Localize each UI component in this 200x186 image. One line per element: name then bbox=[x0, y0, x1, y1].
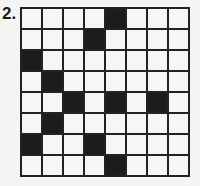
grid-cell-white bbox=[169, 30, 188, 49]
grid-cell-white bbox=[43, 51, 62, 70]
grid-cell-white bbox=[85, 72, 104, 91]
grid-cell-white bbox=[64, 51, 83, 70]
grid-cell-black bbox=[22, 51, 41, 70]
grid-cell-white bbox=[169, 72, 188, 91]
grid-cell-white bbox=[127, 135, 146, 154]
grid-cell-white bbox=[127, 30, 146, 49]
grid-cell-black bbox=[43, 72, 62, 91]
grid-cell-white bbox=[148, 156, 167, 175]
grid-cell-white bbox=[64, 135, 83, 154]
grid-cell-white bbox=[148, 30, 167, 49]
grid-cell-white bbox=[106, 51, 125, 70]
grid-cell-black bbox=[22, 135, 41, 154]
grid-cell-white bbox=[85, 9, 104, 28]
grid-cell-black bbox=[106, 93, 125, 112]
grid-cell-white bbox=[85, 114, 104, 133]
grid-cell-white bbox=[127, 114, 146, 133]
grid-cell-white bbox=[22, 156, 41, 175]
grid-cell-white bbox=[169, 135, 188, 154]
grid-cell-white bbox=[106, 72, 125, 91]
puzzle-grid bbox=[20, 7, 190, 177]
grid-cell-white bbox=[85, 156, 104, 175]
puzzle-number: 2. bbox=[2, 4, 16, 24]
grid-cell-white bbox=[43, 156, 62, 175]
grid-cell-white bbox=[64, 156, 83, 175]
grid-cell-white bbox=[85, 93, 104, 112]
grid-cell-white bbox=[106, 114, 125, 133]
grid-cell-white bbox=[148, 135, 167, 154]
grid-cell-white bbox=[106, 30, 125, 49]
grid-cell-white bbox=[148, 114, 167, 133]
grid-cell-white bbox=[22, 114, 41, 133]
grid-cell-black bbox=[43, 114, 62, 133]
grid-cell-white bbox=[106, 135, 125, 154]
grid-cell-white bbox=[22, 72, 41, 91]
grid-cell-white bbox=[85, 51, 104, 70]
grid-cell-white bbox=[22, 9, 41, 28]
grid-cell-white bbox=[169, 51, 188, 70]
grid-cell-black bbox=[106, 156, 125, 175]
grid-cell-white bbox=[169, 114, 188, 133]
grid-cell-black bbox=[64, 93, 83, 112]
grid-cell-white bbox=[169, 93, 188, 112]
grid-cell-white bbox=[64, 114, 83, 133]
grid-cell-white bbox=[169, 9, 188, 28]
grid-cell-black bbox=[85, 30, 104, 49]
grid-cell-white bbox=[43, 9, 62, 28]
grid-cell-white bbox=[64, 72, 83, 91]
grid-cell-white bbox=[64, 30, 83, 49]
grid-cell-black bbox=[106, 9, 125, 28]
grid-cell-white bbox=[148, 9, 167, 28]
grid-cell-white bbox=[22, 93, 41, 112]
grid-cell-white bbox=[43, 93, 62, 112]
grid-cell-white bbox=[22, 30, 41, 49]
grid-cell-white bbox=[127, 156, 146, 175]
grid-cell-black bbox=[148, 93, 167, 112]
grid-cell-white bbox=[43, 135, 62, 154]
grid-cell-white bbox=[127, 51, 146, 70]
grid-cell-white bbox=[169, 156, 188, 175]
grid-cell-white bbox=[127, 93, 146, 112]
grid-cell-white bbox=[148, 51, 167, 70]
grid-cell-white bbox=[43, 30, 62, 49]
grid-cell-white bbox=[148, 72, 167, 91]
grid-cell-black bbox=[85, 135, 104, 154]
grid-cell-white bbox=[127, 72, 146, 91]
grid-cell-white bbox=[64, 9, 83, 28]
grid-cell-white bbox=[127, 9, 146, 28]
